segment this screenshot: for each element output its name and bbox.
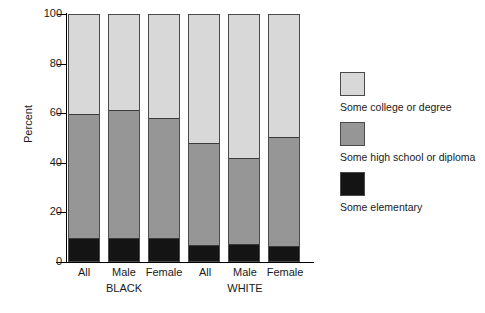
bar-segment-some-elementary	[188, 245, 220, 262]
bar-segment-some-elementary	[108, 238, 140, 262]
legend-swatch-icon	[340, 122, 365, 146]
bar-segment-some-elementary	[148, 238, 180, 262]
bar-segment-some-college-or-degree	[68, 14, 100, 114]
chart-figure: 100 80 60 40 20 0 Percent All Male Femal…	[0, 0, 485, 313]
legend-swatch-icon	[340, 72, 365, 96]
bar-segment-some-college-or-degree	[188, 14, 220, 143]
bar-segment-some-high-school-or-diploma	[68, 114, 100, 238]
bar-segment-some-high-school-or-diploma	[108, 110, 140, 238]
bar-segment-some-college-or-degree	[228, 14, 260, 158]
legend-swatch-icon	[340, 172, 365, 196]
bar-segment-some-elementary	[268, 246, 300, 262]
legend-label: Some high school or diploma	[340, 151, 480, 163]
legend-item-some-high-school-or-diploma: Some high school or diploma	[340, 122, 480, 163]
bar-segment-some-elementary	[228, 244, 260, 262]
bar-segment-some-high-school-or-diploma	[228, 158, 260, 244]
stacked-bar	[108, 14, 140, 262]
group-label-black: BLACK	[79, 282, 169, 294]
group-label-white: WHITE	[200, 282, 290, 294]
stacked-bar	[228, 14, 260, 262]
legend-item-some-college-or-degree: Some college or degree	[340, 72, 480, 113]
bar-segment-some-high-school-or-diploma	[148, 118, 180, 238]
stacked-bar	[188, 14, 220, 262]
chart-legend: Some college or degree Some high school …	[340, 72, 480, 222]
plot-area	[68, 14, 312, 262]
x-tick-label-white-female: Female	[255, 266, 315, 278]
legend-label: Some college or degree	[340, 101, 480, 113]
y-axis-title: Percent	[22, 64, 34, 184]
legend-item-some-elementary: Some elementary	[340, 172, 480, 213]
stacked-bar	[148, 14, 180, 262]
y-tick-label: 20	[22, 206, 62, 217]
bar-segment-some-college-or-degree	[108, 14, 140, 110]
bar-segment-some-college-or-degree	[268, 14, 300, 137]
stacked-bar	[268, 14, 300, 262]
bar-segment-some-high-school-or-diploma	[188, 143, 220, 245]
legend-label: Some elementary	[340, 201, 480, 213]
bar-segment-some-elementary	[68, 238, 100, 262]
stacked-bar	[68, 14, 100, 262]
bar-segment-some-college-or-degree	[148, 14, 180, 118]
y-tick-label: 100	[22, 8, 62, 19]
bar-segment-some-high-school-or-diploma	[268, 137, 300, 246]
